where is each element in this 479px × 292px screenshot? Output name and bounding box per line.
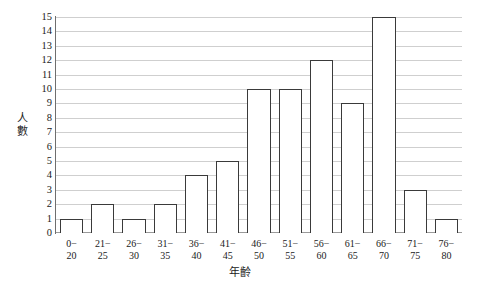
y-axis-tick-label: 14 — [30, 26, 52, 37]
y-axis-tick-label: 1 — [30, 213, 52, 224]
x-axis-tick-label: 21−25 — [87, 238, 118, 262]
x-axis-tick-label-line: 30 — [118, 250, 149, 262]
x-axis-tick-label: 66−70 — [368, 238, 399, 262]
plot-area — [56, 17, 462, 233]
bar — [372, 17, 395, 233]
bar — [154, 204, 177, 233]
bar — [404, 190, 427, 233]
y-axis-line — [55, 16, 56, 234]
y-axis-title-char-2: 數 — [14, 125, 30, 138]
x-axis-tick-label-line: 21− — [87, 238, 118, 250]
y-axis-tick-label: 9 — [30, 98, 52, 109]
x-axis-tick-label-line: 60 — [306, 250, 337, 262]
y-axis-tick-label: 11 — [30, 69, 52, 80]
x-axis-tick-label-line: 26− — [118, 238, 149, 250]
y-axis-tick-label: 7 — [30, 127, 52, 138]
x-axis-tick-label: 31−35 — [150, 238, 181, 262]
x-axis-tick-label: 76−80 — [431, 238, 462, 262]
y-axis-tick-label: 6 — [30, 141, 52, 152]
x-axis-tick-label-line: 76− — [431, 238, 462, 250]
x-axis-tick-label-line: 51− — [275, 238, 306, 250]
x-axis-tick-label-line: 65 — [337, 250, 368, 262]
x-axis-tick-label-line: 40 — [181, 250, 212, 262]
x-axis-tick-label-line: 71− — [400, 238, 431, 250]
x-axis-tick-label-line: 80 — [431, 250, 462, 262]
bar-series — [56, 17, 462, 233]
bar — [122, 219, 145, 233]
x-axis-tick-label-line: 35 — [150, 250, 181, 262]
bar — [310, 60, 333, 233]
y-axis-tick-label: 10 — [30, 84, 52, 95]
x-axis-tick-label-line: 55 — [275, 250, 306, 262]
y-axis-tick-label: 8 — [30, 113, 52, 124]
bar — [185, 175, 208, 233]
x-axis-tick-label-line: 66− — [368, 238, 399, 250]
x-axis-tick-label-line: 56− — [306, 238, 337, 250]
y-axis-title: 人 數 — [14, 112, 30, 138]
x-axis-tick-label-line: 41− — [212, 238, 243, 250]
y-axis-tick-label: 2 — [30, 199, 52, 210]
bar — [216, 161, 239, 233]
x-axis-tick-label-line: 45 — [212, 250, 243, 262]
bar — [247, 89, 270, 233]
x-axis-tick-label-line: 75 — [400, 250, 431, 262]
x-axis-tick-label: 46−50 — [243, 238, 274, 262]
x-axis-tick-label-line: 61− — [337, 238, 368, 250]
bar — [91, 204, 114, 233]
bar — [435, 219, 458, 233]
x-axis-tick-label-line: 0− — [56, 238, 87, 250]
bar — [279, 89, 302, 233]
x-axis-tick-label: 71−75 — [400, 238, 431, 262]
y-axis-tick-label: 3 — [30, 185, 52, 196]
bar — [341, 103, 364, 233]
x-axis-title: 年齡 — [0, 266, 479, 279]
x-axis-tick-label: 26−30 — [118, 238, 149, 262]
x-axis-tick-label: 56−60 — [306, 238, 337, 262]
x-axis-tick-label-line: 20 — [56, 250, 87, 262]
y-axis-tick-label: 0 — [30, 228, 52, 239]
y-axis-tick-label: 13 — [30, 41, 52, 52]
x-axis-tick-label: 61−65 — [337, 238, 368, 262]
y-axis-tick-label: 12 — [30, 55, 52, 66]
x-axis-tick-label-line: 25 — [87, 250, 118, 262]
x-axis-tick-label-line: 46− — [243, 238, 274, 250]
y-axis-title-char-1: 人 — [14, 112, 30, 125]
x-axis-tick-label-line: 36− — [181, 238, 212, 250]
x-axis-tick-label: 0−20 — [56, 238, 87, 262]
y-axis-tick-labels: 0123456789101112131415 — [30, 17, 52, 233]
bar-chart: 人 數 0123456789101112131415 0−2021−2526−3… — [0, 0, 479, 292]
y-axis-tick-label: 15 — [30, 12, 52, 23]
x-axis-tick-label: 51−55 — [275, 238, 306, 262]
x-axis-tick-label: 41−45 — [212, 238, 243, 262]
x-axis-tick-label: 36−40 — [181, 238, 212, 262]
x-axis-tick-label-line: 50 — [243, 250, 274, 262]
x-axis-tick-label-line: 70 — [368, 250, 399, 262]
bar — [60, 219, 83, 233]
y-axis-tick-label: 4 — [30, 170, 52, 181]
x-axis-tick-label-line: 31− — [150, 238, 181, 250]
y-axis-tick-label: 5 — [30, 156, 52, 167]
